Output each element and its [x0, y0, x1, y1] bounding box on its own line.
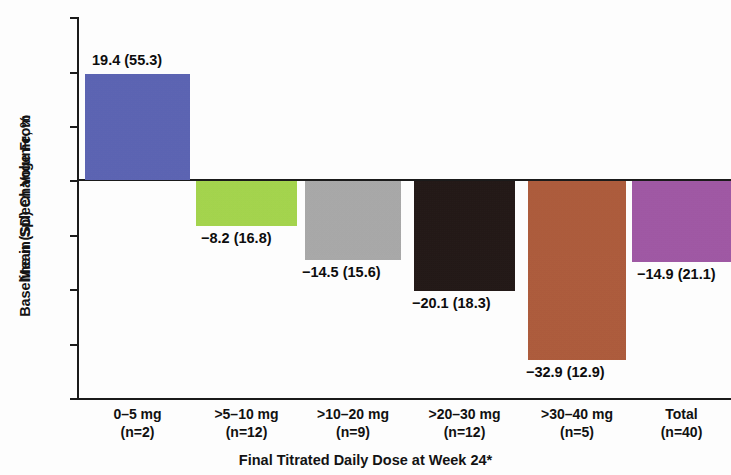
bar-dose-0-5mg: [85, 74, 190, 180]
x-label-dose-0-5mg-text: 0–5 mg: [113, 406, 161, 422]
y-tick-10: [70, 126, 78, 128]
bar-dose-gt5-10mg: [196, 181, 297, 226]
plot-area: 30 20 10 0 −10 −20 −30 −40 19.4 (55.3) −…: [77, 17, 731, 399]
x-axis-line: [77, 398, 731, 400]
x-label-dose-0-5mg: 0–5 mg (n=2): [85, 406, 190, 441]
x-label-dose-gt20-30mg: >20–30 mg (n=12): [414, 406, 515, 441]
spleen-volume-bar-chart: Mean (SD) Change From Baseline in Spleen…: [0, 0, 731, 475]
x-label-dose-gt5-10mg: >5–10 mg (n=12): [196, 406, 297, 441]
y-axis-line: [77, 17, 79, 399]
x-label-dose-0-5mg-count: (n=2): [85, 424, 190, 442]
x-label-dose-gt20-30mg-text: >20–30 mg: [429, 406, 501, 422]
y-tick-neg40: [70, 398, 78, 400]
y-axis-title: Mean (SD) Change From Baseline in Spleen…: [0, 0, 46, 400]
y-tick-neg30: [70, 344, 78, 346]
data-label-dose-gt20-30mg: −20.1 (18.3): [412, 296, 491, 311]
x-label-dose-gt10-20mg: >10–20 mg (n=9): [305, 406, 401, 441]
y-tick-20: [70, 72, 78, 74]
x-label-total-text: Total: [665, 406, 697, 422]
x-label-total: Total (n=40): [632, 406, 731, 441]
x-label-dose-gt10-20mg-text: >10–20 mg: [317, 406, 389, 422]
y-tick-neg20: [70, 289, 78, 291]
x-label-dose-gt30-40mg-text: >30–40 mg: [541, 406, 613, 422]
x-label-dose-gt30-40mg: >30–40 mg (n=5): [528, 406, 626, 441]
y-tick-30: [70, 17, 78, 19]
data-label-dose-0-5mg: 19.4 (55.3): [92, 53, 162, 68]
bar-dose-gt20-30mg: [414, 181, 515, 291]
x-label-dose-gt20-30mg-count: (n=12): [414, 424, 515, 442]
x-label-dose-gt10-20mg-count: (n=9): [305, 424, 401, 442]
data-label-total: −14.9 (21.1): [637, 267, 716, 282]
data-label-dose-gt5-10mg: −8.2 (16.8): [201, 231, 272, 246]
y-tick-neg10: [70, 235, 78, 237]
x-axis-title: Final Titrated Daily Dose at Week 24*: [0, 452, 731, 468]
y-axis-title-line-2: Baseline in Spleen Volume, %: [17, 26, 33, 406]
bar-dose-gt10-20mg: [305, 181, 401, 260]
bar-total: [632, 181, 731, 262]
data-label-dose-gt10-20mg: −14.5 (15.6): [302, 265, 381, 280]
data-label-dose-gt30-40mg: −32.9 (12.9): [526, 365, 605, 380]
x-label-dose-gt30-40mg-count: (n=5): [528, 424, 626, 442]
y-tick-0: [70, 180, 78, 182]
x-label-dose-gt5-10mg-count: (n=12): [196, 424, 297, 442]
bar-dose-gt30-40mg: [528, 181, 626, 360]
x-label-total-count: (n=40): [632, 424, 731, 442]
x-label-dose-gt5-10mg-text: >5–10 mg: [214, 406, 278, 422]
